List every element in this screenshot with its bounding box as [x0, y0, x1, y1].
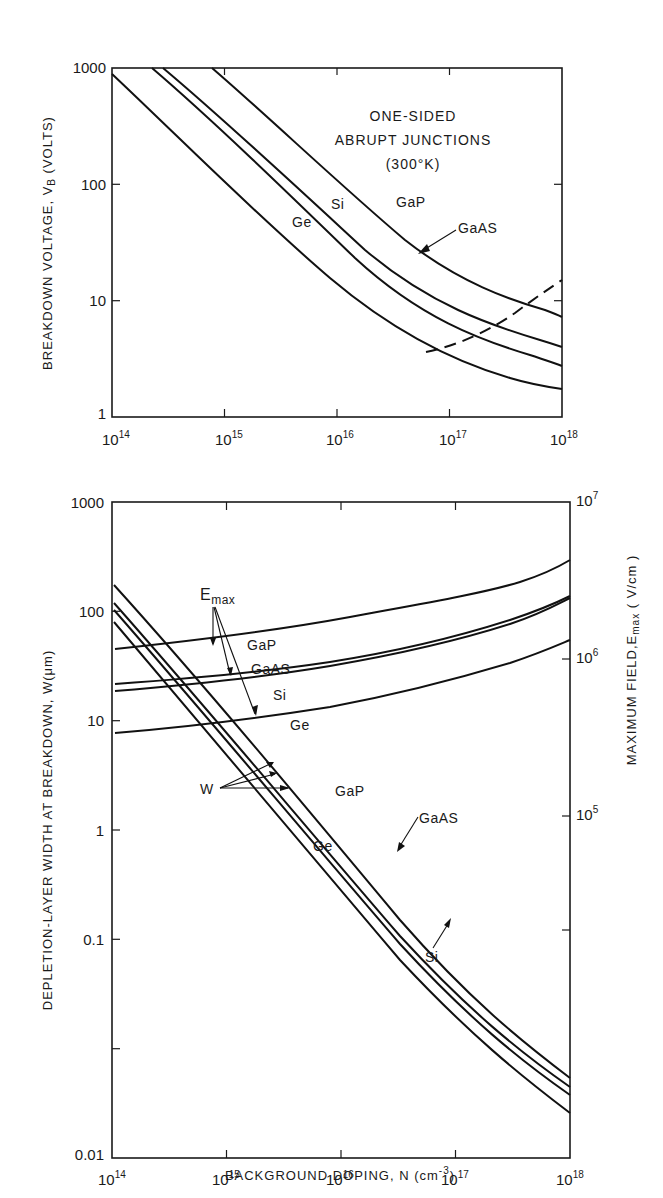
- top-curve-gap: [212, 68, 562, 317]
- bottom-y-axis-label: DEPLETION-LAYER WIDTH AT BREAKDOWN, W(μm…: [40, 650, 55, 1011]
- top-chart: 1000 100 10 1 1014 1015 1016 1017 1018 B…: [40, 59, 578, 448]
- top-label-si: Si: [331, 196, 344, 212]
- bottom-plot-frame: [112, 502, 570, 1158]
- bottom-emax-label-ge: Ge: [290, 717, 310, 733]
- top-curve-gaas: [163, 68, 562, 347]
- top-annotation-line3: (300°K): [386, 156, 441, 172]
- bottom-w-label-gap: GaP: [335, 783, 365, 799]
- bottom-right-tick-1e7: 107: [576, 490, 599, 509]
- top-label-gaas: GaAS: [458, 220, 497, 236]
- bottom-emax-si: [115, 598, 570, 691]
- bottom-w-label: W: [200, 781, 214, 797]
- bottom-x-ticks: [227, 502, 456, 1158]
- bottom-emax-gap: [115, 560, 570, 649]
- bottom-y-tick-0.1: 0.1: [83, 931, 104, 948]
- bottom-emax-ge: [115, 640, 570, 733]
- bottom-w-label-pointers: [397, 817, 451, 948]
- bottom-w-gap: [114, 585, 570, 1078]
- bottom-emax-label-gaas: GaAS: [251, 661, 290, 677]
- top-y-tick-100: 100: [81, 176, 106, 193]
- bottom-w-label-ge: Ge: [313, 838, 333, 854]
- top-x-tick-1e15: 1015: [215, 429, 243, 448]
- bottom-right-tick-1e5: 105: [576, 804, 599, 823]
- top-x-tick-1e18: 1018: [550, 429, 578, 448]
- top-annotation-line2: ABRUPT JUNCTIONS: [335, 132, 492, 148]
- top-label-gap: GaP: [396, 194, 426, 210]
- bottom-emax-label-si: Si: [273, 687, 286, 703]
- bottom-emax-gaas: [115, 596, 570, 684]
- bottom-x-axis-label: BACKGROUND DOPING, N (cm-3): [225, 1165, 455, 1183]
- bottom-y-tick-1: 1: [96, 822, 104, 839]
- bottom-x-tick-1e14: 1014: [98, 1169, 126, 1188]
- bottom-y-tick-0.01: 0.01: [75, 1146, 104, 1163]
- bottom-y-tick-1000: 1000: [71, 494, 104, 511]
- figure: 1000 100 10 1 1014 1015 1016 1017 1018 B…: [0, 0, 663, 1198]
- top-y-axis-label: BREAKDOWN VOLTAGE, VB (VOLTS): [40, 116, 57, 370]
- bottom-right-y-axis-label: MAXIMUM FIELD,Emax ( V/cm ): [624, 555, 641, 766]
- top-y-tick-1: 1: [98, 405, 106, 422]
- bottom-emax-label: Emax: [200, 586, 235, 607]
- bottom-x-tick-1e18: 1018: [556, 1169, 584, 1188]
- bottom-w-label-gaas: GaAS: [419, 810, 458, 826]
- bottom-y-ticks: [112, 611, 570, 1048]
- top-x-tick-1e16: 1016: [326, 429, 354, 448]
- bottom-emax-label-gap: GaP: [247, 637, 277, 653]
- top-y-tick-10: 10: [89, 292, 106, 309]
- bottom-y-tick-10: 10: [87, 712, 104, 729]
- bottom-w-label-si: Si: [425, 949, 438, 965]
- bottom-chart: 1000 100 10 1 0.1 0.01 107 106 105 1014 …: [40, 490, 641, 1188]
- top-y-tick-1000: 1000: [73, 59, 106, 76]
- top-plot-frame: [112, 68, 562, 417]
- top-x-tick-1e17: 1017: [439, 429, 467, 448]
- top-label-ge: Ge: [292, 214, 312, 230]
- bottom-w-gaas: [114, 603, 570, 1087]
- bottom-right-tick-1e6: 106: [576, 647, 599, 666]
- bottom-y-tick-100: 100: [79, 603, 104, 620]
- top-x-tick-1e14: 1014: [102, 429, 130, 448]
- top-annotation-line1: ONE-SIDED: [370, 108, 457, 124]
- top-gaas-pointer-arrow: [418, 230, 456, 254]
